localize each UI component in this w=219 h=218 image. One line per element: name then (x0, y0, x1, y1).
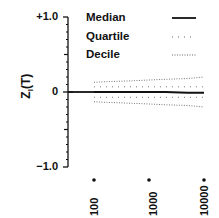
legend-median: Median (86, 11, 126, 23)
series-median (94, 92, 204, 93)
series-decile-upper (94, 77, 204, 82)
y-axis-label: Zl(T) (19, 71, 35, 101)
series-lines (68, 77, 204, 107)
chart: +1.0 0 −1.0 Zl(T) 100 1000 10000 Median … (0, 0, 219, 218)
x-tick-markers (92, 178, 206, 182)
x-tick-1000: 1000 (147, 192, 159, 216)
y-tick-bottom: −1.0 (18, 160, 58, 172)
legend-decile: Decile (86, 48, 120, 60)
y-tick-top: +1.0 (18, 10, 58, 22)
x-tick-100: 100 (88, 198, 100, 216)
legend-quartile: Quartile (86, 30, 129, 42)
x-tick-10000: 10000 (198, 185, 210, 216)
series-decile-lower (94, 102, 204, 107)
